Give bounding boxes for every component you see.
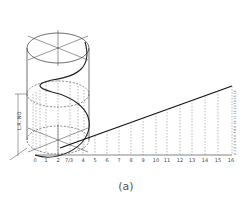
- figure-caption: (a): [111, 180, 141, 193]
- vertical-scale: 0 1 2 3 4 5 6 7 8 9 10 11 12 13 14 15 16: [233, 90, 237, 155]
- helix-development-drawing: L.R. NO 0 1 2 3 4 5 6 7 8 9 10 11 12 13 …: [0, 0, 252, 201]
- svg-text:12: 12: [177, 157, 183, 163]
- svg-text:6: 6: [105, 157, 108, 163]
- svg-text:7: 7: [117, 157, 120, 163]
- svg-text:15: 15: [215, 157, 221, 163]
- svg-text:7/3: 7/3: [65, 157, 73, 163]
- dimension-label: L.R. NO: [16, 111, 22, 130]
- baseline-labels: 0 1 2 7/3 4 5 6 7 8 9 10 11 12 13 14 15 …: [33, 157, 234, 163]
- svg-text:14: 14: [202, 157, 208, 163]
- svg-text:8: 8: [129, 157, 132, 163]
- cylinder-generators: [33, 80, 84, 155]
- svg-text:0: 0: [33, 157, 36, 163]
- svg-text:2: 2: [56, 157, 59, 163]
- svg-text:13: 13: [189, 157, 195, 163]
- svg-text:16: 16: [228, 157, 234, 163]
- svg-text:11: 11: [164, 157, 170, 163]
- svg-text:9: 9: [141, 157, 144, 163]
- svg-text:5: 5: [93, 157, 96, 163]
- svg-text:4: 4: [81, 157, 84, 163]
- development-ordinates: [83, 86, 232, 155]
- svg-text:1: 1: [44, 157, 47, 163]
- helix-development-line: [60, 86, 232, 148]
- svg-text:10: 10: [153, 157, 159, 163]
